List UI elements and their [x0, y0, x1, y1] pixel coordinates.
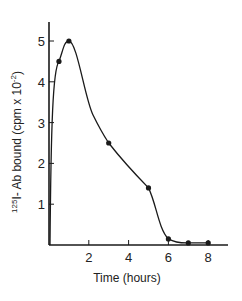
data-points	[56, 38, 210, 245]
y-tick-label: 3	[38, 116, 45, 131]
y-tick-label: 2	[38, 156, 45, 171]
data-curve	[50, 41, 208, 245]
data-point	[56, 59, 61, 64]
data-point	[186, 240, 191, 245]
data-point	[206, 240, 211, 245]
y-tick-label: 4	[38, 75, 45, 90]
data-point	[146, 185, 151, 190]
chart: 12345 2468 Time (hours) 125I- Ab bound (…	[0, 0, 242, 301]
x-ticks: 2468	[85, 240, 212, 265]
data-point	[166, 236, 171, 241]
x-tick-label: 4	[125, 250, 132, 265]
svg-text:125I- Ab bound (cpm x 10-2): 125I- Ab bound (cpm x 10-2)	[9, 71, 24, 213]
x-tick-label: 2	[85, 250, 92, 265]
y-axis-title: 125I- Ab bound (cpm x 10-2)	[9, 71, 24, 213]
y-tick-label: 1	[38, 197, 45, 212]
y-tick-label: 5	[38, 34, 45, 49]
data-point	[106, 140, 111, 145]
data-point	[66, 38, 71, 43]
x-tick-label: 8	[205, 250, 212, 265]
x-axis-title: Time (hours)	[93, 271, 161, 285]
x-tick-label: 6	[165, 250, 172, 265]
